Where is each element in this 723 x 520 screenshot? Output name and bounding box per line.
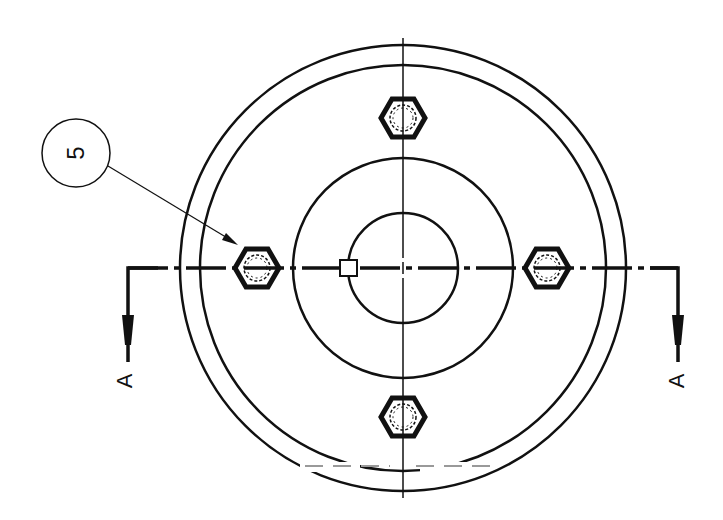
leader-line — [108, 166, 234, 242]
balloon-number: 5 — [61, 139, 91, 167]
leader-arrowhead — [222, 233, 238, 245]
arrowhead-left — [122, 315, 134, 345]
reference-square — [340, 260, 357, 276]
section-label-right: A — [664, 369, 690, 393]
arrowhead-right — [672, 315, 684, 345]
section-label-left: A — [112, 369, 138, 393]
flange-drawing — [0, 0, 723, 520]
